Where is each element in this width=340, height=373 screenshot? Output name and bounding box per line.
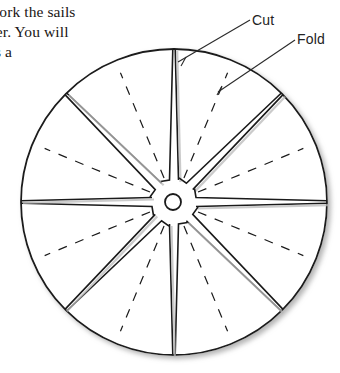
- fold-label: Fold: [297, 31, 325, 47]
- page-canvas: work the sails her. You will as a Cut Fo…: [0, 0, 340, 373]
- pinwheel-sail-diagram: [0, 0, 340, 373]
- hub-circle-group: [165, 194, 181, 210]
- cut-label: Cut: [252, 12, 274, 28]
- hub-circle: [165, 194, 181, 210]
